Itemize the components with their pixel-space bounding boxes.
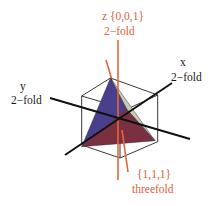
x-axis-fold-label: 2−fold bbox=[171, 71, 202, 83]
y-axis-fold-label: 2−fold bbox=[11, 94, 42, 106]
threefold-fold-label: threefold bbox=[132, 183, 174, 195]
z-axis-label: z {0,0,1} bbox=[102, 10, 144, 23]
tetrahedron-symmetry-diagram: z {0,0,1} 2−fold x 2−fold y 2−fold {1,1,… bbox=[0, 0, 215, 206]
threefold-axis-back bbox=[106, 60, 112, 80]
x-axis-label: x bbox=[180, 56, 186, 68]
y-axis-label: y bbox=[20, 80, 26, 93]
threefold-axis-label: {1,1,1} bbox=[137, 168, 171, 181]
z-axis-fold-label: 2−fold bbox=[104, 25, 135, 37]
cube-edge bbox=[82, 145, 120, 158]
